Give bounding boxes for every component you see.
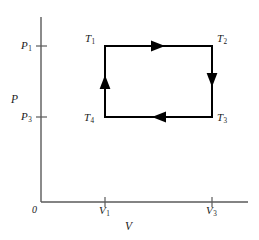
y-axis-label: P <box>11 94 18 106</box>
y-tick-label-P1: P1 <box>21 40 32 51</box>
arrow-T3-to-T4 <box>152 112 166 123</box>
arrow-T1-to-T2 <box>151 41 165 52</box>
cycle-path <box>105 46 212 117</box>
pv-diagram-figure: P1 P3 P T1 T2 T3 T4 V1 V3 V 0 <box>0 0 259 240</box>
arrow-T2-to-T3 <box>207 73 218 87</box>
state-label-T3: T3 <box>217 112 227 123</box>
state-label-T4: T4 <box>84 112 94 123</box>
x-tick-label-V3: V3 <box>206 205 217 216</box>
state-label-T2: T2 <box>217 33 227 44</box>
x-axis-label: V <box>125 221 132 233</box>
origin-label: 0 <box>32 205 37 215</box>
arrow-T4-to-T1 <box>100 75 111 89</box>
y-tick-label-P3: P3 <box>21 111 32 122</box>
x-tick-label-V1: V1 <box>99 205 110 216</box>
state-label-T1: T1 <box>85 33 95 44</box>
